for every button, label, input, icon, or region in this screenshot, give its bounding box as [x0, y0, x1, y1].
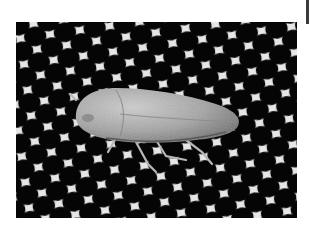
leafhopper-photo: Grayscale photograph of a leafhopper res… — [16, 22, 297, 218]
insect-eye — [82, 114, 94, 122]
photo-canvas — [16, 22, 297, 218]
edge-bar — [306, 0, 309, 24]
